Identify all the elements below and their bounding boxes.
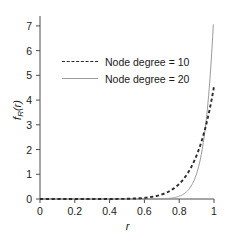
- y-axis-title: fR(r): [11, 80, 23, 140]
- x-tick-label: 0.2: [60, 206, 90, 217]
- y-tick-label: 1: [8, 169, 32, 180]
- y-tick-label: 2: [8, 145, 32, 156]
- y-axis-title-base: f: [11, 117, 23, 120]
- x-tick-label: 0.4: [95, 206, 125, 217]
- x-tick-label: 1: [199, 206, 229, 217]
- legend-entry-node-degree-10: Node degree = 10: [62, 53, 197, 70]
- y-tick-label: 6: [8, 46, 32, 57]
- legend-label-node-degree-10: Node degree = 10: [105, 56, 189, 68]
- x-tick-label: 0.6: [129, 206, 159, 217]
- x-tick-label: 0: [25, 206, 55, 217]
- figure: 01234567 00.20.40.60.81 fR(r) r Node deg…: [0, 0, 235, 245]
- legend-swatch-dashed-icon: [62, 61, 98, 62]
- y-tick-label: 7: [8, 21, 32, 32]
- legend-swatch-solid-icon: [62, 78, 98, 79]
- y-tick-marks: [36, 26, 40, 199]
- y-axis-title-subscript: R: [16, 111, 25, 117]
- x-axis-title: r: [105, 220, 150, 232]
- x-tick-label: 0.8: [164, 206, 194, 217]
- series-line-node-degree-20: [40, 24, 213, 199]
- y-tick-label: 0: [8, 194, 32, 205]
- data-series-group: [40, 24, 214, 199]
- y-axis-title-argument: (r): [11, 100, 23, 111]
- legend-label-node-degree-20: Node degree = 20: [105, 73, 189, 85]
- series-line-node-degree-10: [40, 86, 214, 199]
- legend-entry-node-degree-20: Node degree = 20: [62, 70, 197, 87]
- legend: Node degree = 10 Node degree = 20: [62, 53, 197, 87]
